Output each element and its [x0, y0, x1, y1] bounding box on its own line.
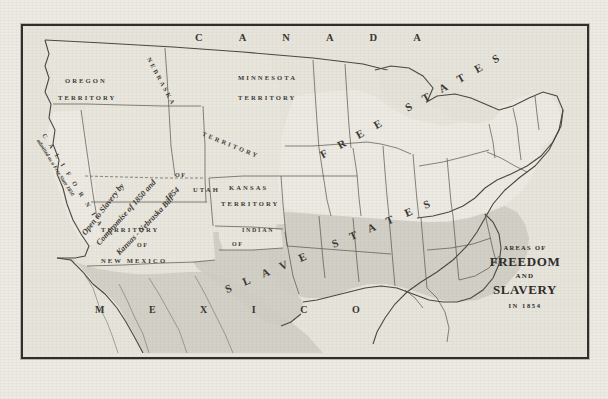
map-plate-frame: .geo{stroke:#56524b;stroke-width:.7;fill… — [21, 24, 589, 359]
title-line-freedom: FREEDOM — [477, 254, 573, 270]
map-plate-inner: .geo{stroke:#56524b;stroke-width:.7;fill… — [23, 26, 587, 357]
title-line-and: AND — [477, 272, 573, 280]
title-line-areas-of: AREAS OF — [477, 244, 573, 251]
title-line-year: IN 1854 — [477, 302, 573, 309]
map-page: .geo{stroke:#56524b;stroke-width:.7;fill… — [0, 0, 608, 399]
title-cartouche: AREAS OF FREEDOM AND SLAVERY IN 1854 — [477, 244, 573, 309]
title-line-slavery: SLAVERY — [477, 282, 573, 298]
